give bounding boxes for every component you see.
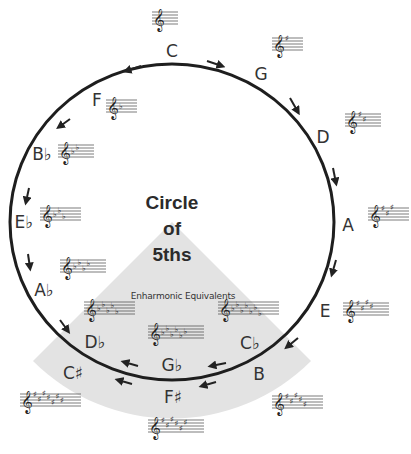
flat-icon: ♭: [106, 306, 110, 315]
arrow-icon: [59, 119, 70, 127]
sharp-icon: ♯: [370, 302, 374, 311]
treble-clef-icon: 𝄞: [219, 297, 231, 322]
sharp-icon: ♯: [47, 393, 51, 402]
key-label-g-flat: G♭: [161, 355, 182, 375]
treble-clef-icon: 𝄞: [41, 203, 53, 228]
sharp-icon: ♯: [356, 299, 360, 308]
flat-icon: ♭: [249, 307, 253, 316]
key-label-c-sharp: C♯: [63, 363, 83, 383]
flat-icon: ♭: [166, 324, 170, 333]
staff-f-sharp: 𝄞♯♯♯♯♯♯: [148, 415, 204, 441]
key-label-c-flat: C♭: [240, 333, 260, 353]
treble-clef-icon: 𝄞: [21, 389, 33, 414]
sharp-icon: ♯: [184, 418, 188, 427]
staff-a: 𝄞♯♯♯: [368, 203, 409, 229]
arrow-icon: [333, 168, 336, 183]
sharp-icon: ♯: [390, 203, 394, 212]
arrow-icon: [207, 61, 222, 66]
flat-icon: ♭: [62, 212, 66, 221]
arrow-icon: [26, 188, 29, 202]
key-label-a: A: [342, 215, 354, 235]
arrow-icon: [332, 260, 336, 274]
treble-clef-icon: 𝄞: [346, 109, 358, 134]
key-label-b-flat: B♭: [32, 144, 52, 164]
sharp-icon: ♯: [358, 110, 362, 119]
staff-e-flat: 𝄞♭♭♭: [40, 203, 81, 228]
sharp-icon: ♯: [60, 396, 64, 405]
treble-clef-icon: 𝄞: [149, 415, 161, 440]
staff-d: 𝄞♯♯: [345, 109, 381, 134]
flat-icon: ♭: [254, 303, 258, 312]
flat-icon: ♭: [115, 307, 119, 316]
sharp-icon: ♯: [179, 424, 183, 433]
flat-icon: ♭: [58, 206, 62, 215]
flat-icon: ♭: [184, 327, 188, 336]
treble-clef-icon: 𝄞: [153, 7, 165, 32]
sharp-icon: ♯: [381, 204, 385, 213]
staff-c: 𝄞: [152, 7, 178, 32]
key-label-d: D: [316, 127, 329, 147]
sharp-icon: ♯: [42, 389, 46, 398]
key-label-e: E: [320, 301, 331, 321]
sharp-icon: ♯: [285, 392, 289, 401]
treble-clef-icon: 𝄞: [107, 95, 119, 120]
sharp-icon: ♯: [38, 395, 42, 404]
staff-b-flat: 𝄞♭♭: [58, 140, 94, 165]
sharp-icon: ♯: [290, 397, 294, 406]
sharp-icon: ♯: [51, 398, 55, 407]
title-line-2: of: [163, 218, 182, 239]
flat-icon: ♭: [240, 306, 244, 315]
sharp-icon: ♯: [363, 115, 367, 124]
key-label-b: B: [253, 364, 265, 384]
title-line-3: 5ths: [152, 244, 191, 265]
staff-c-sharp: 𝄞♯♯♯♯♯♯♯: [20, 389, 81, 415]
flat-icon: ♭: [78, 258, 82, 267]
flat-icon: ♭: [87, 259, 91, 268]
flat-icon: ♭: [53, 210, 57, 219]
staff-f: 𝄞♭: [106, 95, 137, 120]
title-line-1: Circle: [146, 192, 199, 213]
key-label-a-flat: A♭: [34, 280, 54, 300]
flat-icon: ♭: [179, 331, 183, 340]
staff-a-flat: 𝄞♭♭♭♭: [60, 255, 106, 280]
sharp-icon: ♯: [386, 209, 390, 218]
flat-icon: ♭: [236, 300, 240, 309]
staff-e: 𝄞♯♯♯♯: [343, 298, 389, 324]
flat-icon: ♭: [97, 304, 101, 313]
flat-icon: ♭: [170, 330, 174, 339]
flat-icon: ♭: [258, 309, 262, 318]
treble-clef-icon: 𝄞: [85, 297, 97, 322]
flat-icon: ♭: [73, 262, 77, 271]
circle-of-fifths-diagram: Circle of 5ths Enharmonic Equivalents CG…: [0, 0, 411, 454]
flat-icon: ♭: [245, 301, 249, 310]
sharp-icon: ♯: [299, 395, 303, 404]
sharp-icon: ♯: [33, 390, 37, 399]
sharp-icon: ♯: [166, 421, 170, 430]
flat-icon: ♭: [231, 304, 235, 313]
treble-clef-icon: 𝄞: [59, 140, 71, 165]
flat-icon: ♭: [119, 102, 123, 111]
flat-icon: ♭: [102, 300, 106, 309]
key-label-c: C: [166, 41, 178, 61]
treble-clef-icon: 𝄞: [149, 321, 161, 346]
flat-icon: ♭: [161, 328, 165, 337]
sharp-icon: ♯: [56, 392, 60, 401]
sharp-icon: ♯: [365, 298, 369, 307]
title: Circle of 5ths: [146, 192, 199, 265]
key-label-f: F: [92, 90, 102, 110]
flat-icon: ♭: [76, 143, 80, 152]
sharp-icon: ♯: [361, 304, 365, 313]
flat-icon: ♭: [71, 147, 75, 156]
staff-g: 𝄞♯: [272, 33, 303, 58]
flat-icon: ♭: [111, 301, 115, 310]
flat-icon: ♭: [175, 325, 179, 334]
arrow-icon: [28, 254, 30, 268]
key-label-e-flat: E♭: [15, 212, 34, 232]
treble-clef-icon: 𝄞: [273, 391, 285, 416]
key-label-d-flat: D♭: [84, 332, 105, 352]
sharp-icon: ♯: [294, 391, 298, 400]
staff-b: 𝄞♯♯♯♯♯: [272, 391, 323, 417]
arrow-icon: [60, 320, 68, 331]
key-label-g: G: [254, 64, 267, 84]
treble-clef-icon: 𝄞: [61, 255, 73, 280]
